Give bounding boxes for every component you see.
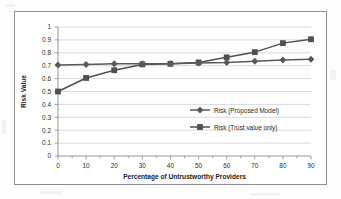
y-tick-label: 0.7: [42, 62, 51, 69]
chart-plot-frame: 1 0.9 0.8 0.7 0.6 0.5 0.4 0.3 0.2 0.1 0 …: [14, 11, 327, 185]
y-tick-label: 1: [47, 23, 51, 30]
data-point-marker: [308, 56, 315, 63]
y-tick-label: 0.1: [42, 139, 51, 146]
y-axis-tick-labels: 1 0.9 0.8 0.7 0.6 0.5 0.4 0.3 0.2 0.1 0: [42, 23, 51, 159]
scan-artifact: [2, 120, 6, 134]
data-point-marker: [280, 56, 287, 63]
x-tick-label: 50: [195, 162, 203, 169]
y-axis-title: Risk Value: [20, 75, 27, 108]
square-marker-icon: [197, 124, 203, 130]
x-tick-label: 10: [83, 162, 91, 169]
figure-canvas: 1 0.9 0.8 0.7 0.6 0.5 0.4 0.3 0.2 0.1 0 …: [0, 0, 341, 199]
series-risk-proposed-model: [55, 56, 315, 69]
series-one-line: [58, 59, 311, 65]
series-one-markers: [55, 56, 315, 69]
data-point-marker: [111, 67, 117, 73]
y-tick-label: 0.3: [42, 114, 51, 121]
x-tick-label: 80: [279, 162, 287, 169]
x-tick-label: 40: [167, 162, 175, 169]
x-tick-label: 90: [307, 162, 315, 169]
chart-legend: Risk (Proposed Model) Risk (Trust value …: [190, 107, 279, 132]
data-point-marker: [308, 36, 314, 42]
x-tick-label: 60: [223, 162, 231, 169]
data-point-marker: [111, 60, 118, 67]
y-tick-label: 0.5: [42, 88, 51, 95]
data-point-marker: [55, 62, 62, 69]
x-tick-label: 70: [251, 162, 259, 169]
legend-label: Risk (Trust value only): [214, 124, 277, 132]
y-tick-label: 0: [47, 152, 51, 159]
x-axis-title: Percentage of Untrustworthy Providers: [123, 173, 246, 181]
data-point-marker: [83, 75, 89, 81]
y-tick-label: 0.9: [42, 36, 51, 43]
y-tick-label: 0.4: [42, 101, 51, 108]
diamond-marker-icon: [197, 107, 204, 114]
data-point-marker: [252, 49, 258, 55]
x-axis-tick-labels: 0 10 20 30 40 50 60 70 80 90: [56, 162, 315, 169]
y-tick-label: 0.2: [42, 127, 51, 134]
scan-artifact: [330, 70, 336, 80]
x-tickmarks: [58, 156, 311, 160]
data-point-marker: [55, 89, 61, 95]
scan-artifact: [6, 4, 15, 7]
risk-value-line-chart: 1 0.9 0.8 0.7 0.6 0.5 0.4 0.3 0.2 0.1 0 …: [15, 12, 326, 184]
scan-artifact: [40, 191, 62, 194]
y-tick-label: 0.6: [42, 75, 51, 82]
scan-artifact: [250, 193, 280, 196]
legend-label: Risk (Proposed Model): [214, 107, 279, 115]
data-point-marker: [251, 58, 258, 65]
x-tick-label: 30: [139, 162, 147, 169]
legend-entry-proposed-model[interactable]: Risk (Proposed Model): [190, 107, 279, 115]
data-point-marker: [280, 40, 286, 46]
x-tick-label: 0: [56, 162, 60, 169]
y-tick-label: 0.8: [42, 49, 51, 56]
x-tick-label: 20: [111, 162, 119, 169]
data-point-marker: [83, 61, 90, 68]
